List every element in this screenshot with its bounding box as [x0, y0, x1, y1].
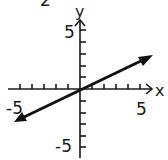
- coordinate-plane: 2 x y -5 5 5 -5: [0, 0, 168, 160]
- y-tick-label-5: 5: [64, 22, 75, 42]
- x-axis-label: x: [155, 81, 164, 100]
- y-axis-label: y: [75, 2, 84, 21]
- partial-label: 2: [40, 0, 51, 10]
- line-arrow-end-icon: [138, 55, 153, 66]
- y-tick-label-neg5: -5: [55, 136, 72, 156]
- x-tick-label-5: 5: [136, 99, 147, 119]
